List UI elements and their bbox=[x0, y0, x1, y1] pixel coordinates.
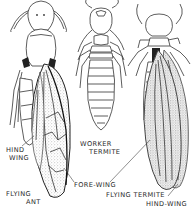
insect-comparison-illustration: HIND WING WORKER TERMITE FLYING ANT FORE… bbox=[0, 0, 193, 212]
label-flying-ant-line2: ANT bbox=[6, 198, 41, 206]
label-worker-termite: WORKER TERMITE bbox=[80, 140, 120, 156]
label-fore-wing: FORE-WING bbox=[74, 181, 116, 189]
flying-termite-drawing bbox=[110, 4, 190, 196]
label-hind-wing-ant-line2: WING bbox=[6, 154, 29, 162]
label-flying-termite: FLYING TERMITE bbox=[106, 191, 165, 199]
label-hind-wing-ant-line1: HIND bbox=[6, 146, 29, 154]
label-hind-wing-ant: HIND WING bbox=[6, 146, 29, 162]
label-worker-termite-line1: WORKER bbox=[80, 140, 120, 148]
worker-termite-drawing bbox=[76, 0, 126, 130]
label-flying-ant-line1: FLYING bbox=[6, 190, 41, 198]
label-hind-wing-termite: HIND-WING bbox=[146, 200, 187, 208]
flying-ant-drawing bbox=[10, 1, 74, 197]
label-flying-ant: FLYING ANT bbox=[6, 190, 41, 206]
label-worker-termite-line2: TERMITE bbox=[80, 148, 120, 156]
